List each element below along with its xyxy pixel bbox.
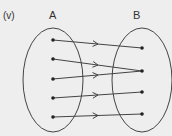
set-a-point xyxy=(51,115,55,119)
set-points xyxy=(51,38,144,119)
set-b-point xyxy=(140,69,144,73)
set-a-point xyxy=(51,57,55,61)
set-b-point xyxy=(140,46,144,50)
set-b-ellipse xyxy=(112,28,172,132)
set-a-point xyxy=(51,96,55,100)
mapping-diagram xyxy=(0,0,172,136)
mapping-arrows xyxy=(53,40,142,119)
set-a-point xyxy=(51,38,55,42)
set-a-point xyxy=(51,77,55,81)
set-b-point xyxy=(140,112,144,116)
set-b-point xyxy=(140,90,144,94)
